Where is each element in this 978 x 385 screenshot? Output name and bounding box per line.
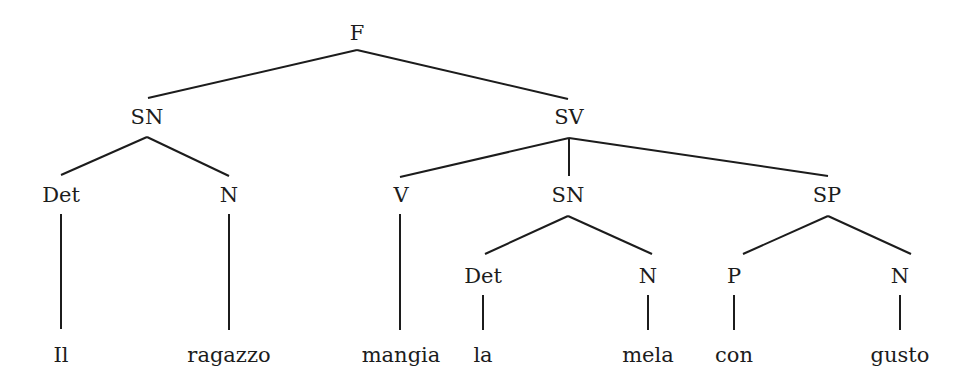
tree-edge-f-sv [357, 50, 568, 99]
tree-edge-sp-n3 [828, 216, 911, 254]
node-label-sp: SP [813, 183, 842, 207]
node-label-sv: SV [554, 105, 584, 129]
node-label-det2: Det [464, 264, 502, 288]
tree-edge-sn2-n2 [568, 216, 652, 254]
tree-edges [61, 50, 911, 330]
syntax-tree-diagram: FSNSVDetNVSNSPDetNPNIlragazzomangialamel… [0, 0, 978, 385]
node-label-p: P [727, 264, 741, 288]
node-label-det1: Det [42, 183, 80, 207]
tree-edge-sv-sp [569, 138, 828, 176]
leaf-word-w4: la [473, 343, 492, 367]
tree-nodes: FSNSVDetNVSNSPDetNPNIlragazzomangialamel… [42, 21, 929, 367]
tree-edge-sn1-det1 [61, 137, 147, 175]
node-label-f: F [350, 21, 365, 45]
tree-edge-sn1-n1 [147, 137, 229, 176]
tree-edge-sv-v [400, 138, 569, 177]
leaf-word-w5: mela [622, 343, 674, 367]
node-label-n2: N [639, 264, 657, 288]
node-label-n1: N [220, 183, 238, 207]
leaf-word-w2: ragazzo [187, 343, 270, 367]
leaf-word-w6: con [715, 343, 753, 367]
leaf-word-w7: gusto [871, 343, 930, 367]
node-label-v: V [392, 183, 409, 207]
node-label-sn2: SN [552, 183, 585, 207]
tree-edge-sn2-det2 [485, 216, 568, 254]
leaf-word-w3: mangia [362, 343, 441, 367]
node-label-n3: N [891, 264, 909, 288]
tree-edge-sp-p [743, 216, 828, 254]
tree-edge-f-sn1 [148, 50, 357, 98]
leaf-word-w1: Il [53, 343, 68, 367]
node-label-sn1: SN [131, 105, 164, 129]
